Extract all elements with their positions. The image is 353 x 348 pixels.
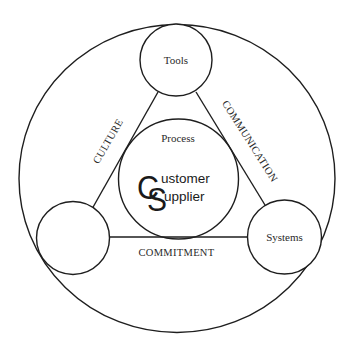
node-tools-label: Tools	[164, 54, 188, 66]
diagram-canvas: Tools Systems CULTURE COMMUNICATION COMM…	[0, 0, 353, 348]
process-label: Process	[161, 132, 195, 144]
node-systems-label: Systems	[266, 231, 303, 243]
customer-supplier-logo: C ustomer S upplier	[137, 168, 210, 218]
logo-customer-rest: ustomer	[161, 171, 210, 186]
logo-supplier-rest: upplier	[164, 189, 205, 204]
edge-commitment-label: COMMITMENT	[139, 247, 215, 258]
edge-communication-label: COMMUNICATION	[220, 98, 280, 184]
node-bottom-left-circle	[37, 202, 110, 275]
